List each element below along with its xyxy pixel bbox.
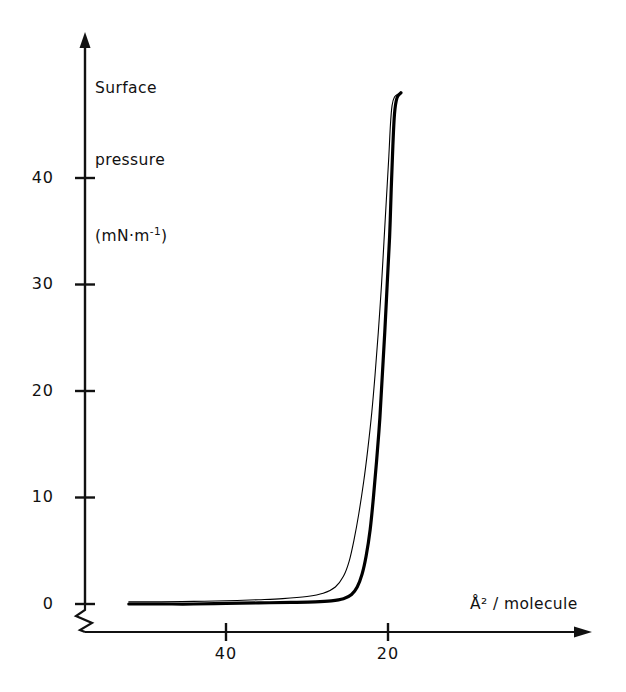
y-axis-units-exponent: -1 bbox=[150, 225, 161, 237]
x-axis bbox=[85, 627, 592, 638]
y-axis-title-line1: Surface bbox=[95, 76, 168, 100]
y-axis-units-close: ) bbox=[161, 227, 167, 245]
series-compression-isotherm-thick bbox=[129, 93, 401, 604]
x-tick-label-20: 20 bbox=[365, 644, 411, 663]
data-curves bbox=[129, 93, 401, 604]
x-axis-title: Å² / molecule bbox=[470, 592, 578, 616]
x-tick-label-40: 40 bbox=[203, 644, 249, 663]
y-tick-label-40: 40 bbox=[14, 168, 54, 187]
y-tick-label-20: 20 bbox=[14, 381, 54, 400]
y-axis-units-open: (mN·m bbox=[95, 227, 150, 245]
y-axis-title-line2: pressure bbox=[95, 148, 168, 172]
y-axis-title-units: (mN·m-1) bbox=[95, 224, 168, 248]
y-axis-title: Surface pressure (mN·m-1) bbox=[95, 28, 168, 272]
y-tick-label-10: 10 bbox=[14, 487, 54, 506]
y-tick-label-30: 30 bbox=[14, 274, 54, 293]
series-compression-isotherm-thin bbox=[129, 94, 399, 602]
surface-pressure-isotherm-chart bbox=[0, 0, 626, 692]
axis-break-zigzag bbox=[76, 604, 92, 632]
y-tick-label-0: 0 bbox=[14, 594, 54, 613]
y-axis bbox=[80, 32, 91, 604]
